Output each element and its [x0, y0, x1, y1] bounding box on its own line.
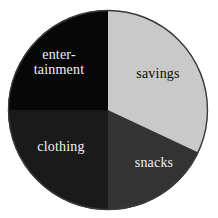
pie-chart-figure: enter- tainment savings clothing snacks — [0, 0, 218, 218]
pie-label-entertainment: enter- tainment — [12, 47, 106, 77]
pie-label-savings: savings — [118, 66, 198, 81]
pie-chart-svg — [0, 0, 218, 218]
pie-label-clothing: clothing — [18, 139, 104, 154]
pie-slice-clothing[interactable] — [8, 110, 108, 210]
pie-label-snacks: snacks — [116, 155, 192, 170]
